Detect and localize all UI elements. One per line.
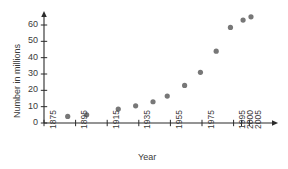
data-point [165,93,170,98]
data-point [182,83,187,88]
x-tick-label: 1875 [48,110,58,129]
data-point-group [65,14,253,119]
x-tick-label: 1935 [142,110,152,129]
data-point [133,103,138,108]
y-tick-label: 50 [18,35,38,45]
data-point [240,18,245,23]
y-tick-label: 30 [18,68,38,78]
y-tick-label: 10 [18,101,38,111]
data-point [214,49,219,54]
data-point [65,114,70,119]
y-tick-label: 60 [18,19,38,29]
x-axis-title: Year [138,152,156,162]
axis-lines [44,17,272,123]
data-point [150,99,155,104]
y-tick-label: 20 [18,84,38,94]
y-tick-label: 40 [18,52,38,62]
y-tick-label: 0 [18,117,38,127]
data-point [248,14,253,19]
plot-area [0,0,288,169]
x-tick-label: 1895 [79,110,89,129]
x-tick-label: 2005 [253,110,263,129]
data-point [198,70,203,75]
x-tick-label: 1955 [174,110,184,129]
scatter-chart: Number in millions 0102030405060 1875189… [0,0,288,169]
x-tick-label: 1915 [111,110,121,129]
x-tick-label: 1975 [206,110,216,129]
data-point [228,25,233,30]
